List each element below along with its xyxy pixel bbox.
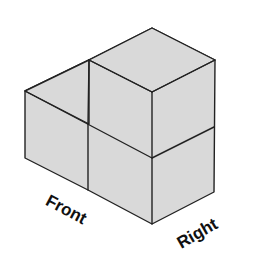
front-label: Front — [43, 191, 91, 228]
right-label: Right — [174, 214, 221, 252]
edge-inner-vertical-upper — [88, 60, 89, 124]
isometric-cubes-diagram: Front Right — [0, 0, 255, 262]
